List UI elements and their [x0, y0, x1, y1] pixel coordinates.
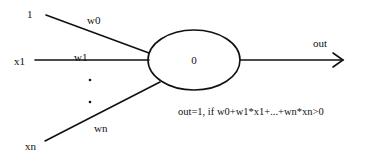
activation-rule: out=1, if w0+w1*x1+...+wn*xn>0 [178, 106, 324, 117]
output-label: out [313, 37, 327, 49]
input-label-xn: xn [25, 140, 37, 152]
weight-label-w0: w0 [87, 14, 101, 26]
ellipsis-dot [89, 79, 92, 82]
perceptron-diagram: 0 out 1 x1 xn w0 w1 wn out=1, if w0+w1*x… [0, 0, 366, 155]
input-label-bias: 1 [27, 8, 33, 20]
weight-label-w1: w1 [74, 51, 87, 63]
weight-label-wn: wn [94, 122, 108, 134]
neuron-label: 0 [191, 54, 197, 66]
ellipsis-dot [89, 101, 92, 104]
input-label-x1: x1 [14, 55, 25, 67]
